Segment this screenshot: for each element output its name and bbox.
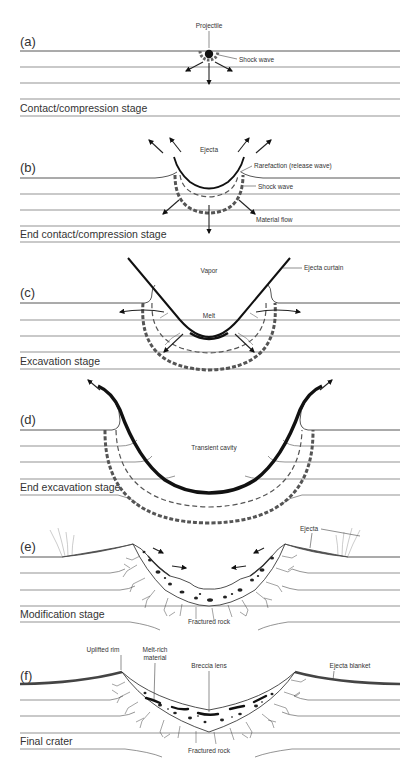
fractured-rock-label-f: Fractured rock — [188, 747, 231, 754]
uplifted-rim-label: Uplifted rim — [87, 646, 120, 654]
stage-label-e: Modification stage — [20, 608, 105, 620]
ground-surface — [20, 285, 400, 303]
rarefaction-wave — [152, 303, 266, 353]
slump-arrow — [232, 566, 246, 568]
leader-line — [219, 55, 237, 59]
flow-arrow — [256, 310, 300, 312]
ground-surface — [20, 402, 400, 430]
panel-f: (f) Final crater Uplifted rim Melt-rich … — [20, 646, 400, 757]
shock-wave-label-b: Shock wave — [258, 183, 293, 190]
panel-e: (e) Modification stage — [20, 525, 400, 630]
ejecta-blanket-label: Ejecta blanket — [330, 662, 371, 670]
projectile-label: Projectile — [196, 22, 223, 30]
panel-letter-f: (f) — [20, 668, 32, 683]
breccia-lens — [122, 672, 295, 732]
flow-arrow — [215, 62, 232, 71]
crater-formation-diagram: (a) Contact/compression stage Projectile… — [0, 0, 410, 759]
ejecta-arrow — [170, 138, 181, 152]
panel-c: (c) Excavation stage Vapor Ejecta curtai… — [20, 258, 400, 370]
panel-a: (a) Contact/compression stage Projectile… — [20, 22, 400, 116]
ejecta-arrow — [88, 380, 100, 390]
ejecta-arrow — [238, 138, 249, 152]
transient-cavity-wall — [98, 386, 322, 493]
panel-letter-c: (c) — [20, 285, 35, 300]
strata-line — [20, 456, 400, 462]
melt-rich-label-1: Melt-rich — [143, 646, 168, 653]
leader-line — [240, 166, 252, 172]
material-flow-arrow — [163, 200, 179, 214]
rarefaction-wave — [116, 430, 302, 507]
strata-line — [20, 569, 400, 573]
panel-letter-a: (a) — [20, 34, 36, 49]
ejecta-label-e: Ejecta — [300, 525, 318, 533]
ejecta-blanket-left — [20, 672, 122, 684]
strata-line — [20, 476, 400, 479]
breccia-lens-label: Breccia lens — [191, 662, 227, 669]
strata-line — [20, 696, 400, 700]
slump-arrow — [153, 548, 163, 553]
shock-wave-label: Shock wave — [239, 56, 274, 63]
ejecta-arrow — [256, 140, 271, 153]
transient-cavity-wall — [174, 157, 244, 189]
transient-cavity-label: Transient cavity — [191, 444, 237, 452]
ejecta-arrow — [320, 380, 332, 390]
melt-label: Melt — [203, 312, 215, 319]
panel-letter-e: (e) — [20, 539, 36, 554]
strata-line — [20, 495, 400, 505]
ejecta-deposit — [285, 544, 348, 557]
panel-d: (d) End excavation stage Transient cavit… — [20, 380, 400, 523]
leader-line — [310, 533, 312, 548]
ejecta-blanket-right — [295, 672, 400, 684]
stage-label-f: Final crater — [20, 735, 73, 747]
vapor-label: Vapor — [201, 267, 219, 275]
ejecta-arrow — [149, 140, 163, 153]
ejecta-curtain-label: Ejecta curtain — [304, 264, 344, 272]
panel-letter-d: (d) — [20, 412, 36, 427]
leader-line — [321, 529, 360, 536]
fractured-rock-label-e: Fractured rock — [188, 618, 231, 625]
stage-label-d: End excavation stage — [20, 481, 121, 493]
slump-arrow — [172, 566, 186, 568]
ground-surface — [20, 172, 400, 178]
ejecta-label: Ejecta — [200, 146, 218, 154]
stage-label-c: Excavation stage — [20, 355, 100, 367]
rarefaction-label: Rarefaction (release wave) — [254, 162, 332, 170]
stage-label-b: End contact/compression stage — [20, 228, 167, 240]
material-flow-label: Material flow — [256, 216, 293, 223]
stage-label-a: Contact/compression stage — [20, 102, 147, 114]
melt-rich-label-2: material — [143, 654, 167, 661]
projectile-icon — [205, 50, 213, 58]
panel-letter-b: (b) — [20, 160, 36, 175]
flow-arrow — [186, 62, 203, 71]
slump-arrow — [254, 548, 264, 553]
panel-b: (b) End contact/compression stage Ejecta… — [20, 138, 400, 242]
material-flow-arrow — [239, 200, 255, 214]
